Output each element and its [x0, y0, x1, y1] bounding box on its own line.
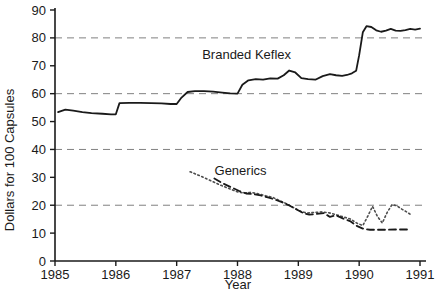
- series-annotation-label: Branded Keflex: [202, 47, 291, 62]
- series-annotation-label: Generics: [215, 163, 268, 178]
- series-line: [190, 172, 411, 226]
- y-axis-tick-label: 60: [32, 86, 46, 101]
- y-axis-tick-label: 80: [32, 30, 46, 45]
- x-axis-title: Year: [225, 277, 252, 292]
- x-axis-tick-label: 1986: [101, 267, 130, 282]
- line-chart: 0102030405060708090 19851986198719881989…: [0, 0, 436, 294]
- y-axis-tick-label: 70: [32, 58, 46, 73]
- y-axis-tick-label: 10: [32, 226, 46, 241]
- y-axis-tick-label: 90: [32, 3, 46, 18]
- chart-page: 0102030405060708090 19851986198719881989…: [0, 0, 436, 294]
- x-axis-tick-label: 1991: [406, 267, 435, 282]
- x-axis-tick-label: 1987: [162, 267, 191, 282]
- series-line: [58, 26, 420, 114]
- x-axis-tick-label: 1989: [284, 267, 313, 282]
- x-axis-tick-label: 1990: [345, 267, 374, 282]
- series-annotations: Branded KeflexGenerics: [202, 47, 291, 178]
- y-axis-title: Dollars for 100 Capsules: [2, 88, 17, 231]
- x-axis-tick-label: 1985: [41, 267, 70, 282]
- gridlines: [55, 38, 426, 205]
- y-axis: 0102030405060708090: [32, 3, 55, 269]
- y-axis-tick-label: 30: [32, 170, 46, 185]
- y-axis-tick-label: 40: [32, 142, 46, 157]
- y-axis-tick-label: 20: [32, 198, 46, 213]
- y-axis-tick-label: 50: [32, 114, 46, 129]
